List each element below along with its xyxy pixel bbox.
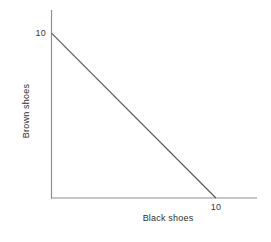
- budget-constraint-line: [52, 33, 216, 198]
- y-axis-title-container: Brown shoes: [22, 51, 34, 171]
- y-axis-tick-label-10: 10: [30, 29, 46, 38]
- x-axis-title: Black shoes: [108, 214, 228, 223]
- x-axis-tick-label-10: 10: [206, 203, 226, 212]
- y-axis-title: Brown shoes: [22, 51, 31, 171]
- chart-figure: 10 10 Black shoes Brown shoes: [0, 0, 271, 242]
